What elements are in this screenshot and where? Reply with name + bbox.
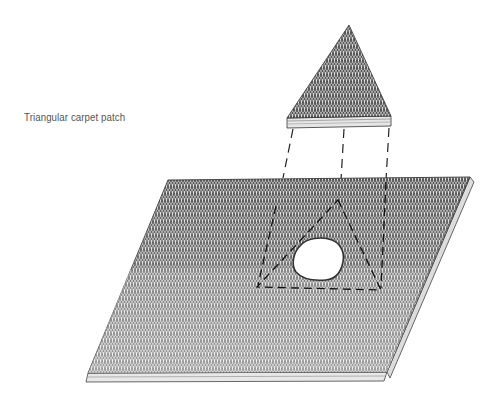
carpet	[86, 177, 474, 382]
patch-label: Triangular carpet patch	[24, 111, 125, 123]
carpet-hole	[293, 238, 343, 280]
patch-pile	[287, 25, 391, 118]
guide-line-middle	[341, 129, 344, 180]
carpet-illustration	[0, 0, 495, 405]
projection-guides	[283, 128, 389, 180]
diagram-canvas: Triangular carpet patch	[0, 0, 495, 405]
guide-line-left	[283, 129, 293, 178]
triangular-patch	[287, 25, 391, 128]
guide-line-right	[386, 128, 389, 180]
